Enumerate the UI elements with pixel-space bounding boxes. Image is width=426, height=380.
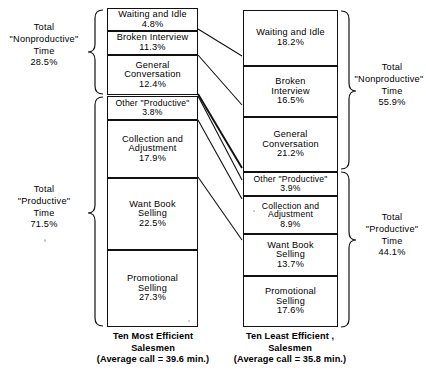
- left-segment-general-conversation[interactable]: General Conversation 12.4%: [107, 55, 198, 95]
- left-column-caption-line3: (Average call = 39.6 min.): [92, 354, 214, 366]
- connector-lines: [198, 29, 242, 240]
- right-segment-broken-interview-value: 16.5%: [277, 96, 304, 105]
- right-group-label-nonproductive-line4: 55.9%: [358, 97, 426, 109]
- right-segment-collection-and-adjustment[interactable]: Collection and Adjustment 8.9%: [243, 196, 338, 234]
- left-column-caption-line2: Salesmen: [92, 343, 214, 355]
- connector-6: [198, 177, 242, 240]
- left-segment-waiting-and-idle-value: 4.8%: [142, 20, 164, 29]
- right-segment-other-productive[interactable]: Other "Productive" 3.9%: [243, 172, 338, 196]
- left-segment-want-book-selling-value: 22.5%: [139, 219, 166, 228]
- left-group-label-nonproductive-line3: Time: [0, 46, 88, 58]
- right-segment-want-book-selling-value: 13.7%: [277, 260, 304, 269]
- connector-3: [198, 94, 242, 168]
- left-brace-nonproductive: [88, 10, 103, 94]
- right-segment-waiting-and-idle[interactable]: Waiting and Idle 18.2%: [243, 10, 338, 66]
- right-group-label-productive-line4: 44.1%: [358, 247, 426, 259]
- left-segment-collection-and-adjustment-value: 17.9%: [139, 154, 166, 163]
- right-segment-broken-interview[interactable]: Broken Interview 16.5%: [243, 66, 338, 117]
- right-group-label-nonproductive: Total "Nonproductive" Time 55.9%: [358, 62, 426, 109]
- connector-1: [198, 29, 242, 56]
- left-column-caption-line1: Ten Most Efficient: [92, 331, 214, 343]
- left-segment-promotional-selling-value: 27.3%: [139, 293, 166, 302]
- right-segment-general-conversation[interactable]: General Conversation 21.2%: [243, 117, 338, 172]
- right-column-caption-line2: Salesmen: [222, 343, 358, 355]
- connector-2: [198, 55, 242, 105]
- left-segment-broken-interview[interactable]: Broken Interview 11.3%: [107, 31, 198, 55]
- left-group-label-productive-line1: Total: [0, 184, 88, 196]
- right-column-caption-line1: Ten Least Efficient ,: [222, 331, 358, 343]
- right-segment-collection-and-adjustment-value: 8.9%: [280, 220, 300, 229]
- right-group-label-productive-line3: Time: [358, 236, 426, 248]
- left-segment-waiting-and-idle-label: Waiting and Idle: [118, 10, 187, 19]
- right-group-label-productive: Total "Productive" Time 44.1%: [358, 212, 426, 259]
- left-segment-waiting-and-idle[interactable]: Waiting and Idle 4.8%: [107, 8, 198, 31]
- right-group-label-productive-line2: "Productive": [358, 224, 426, 236]
- left-segment-other-productive[interactable]: Other "Productive" 3.8%: [107, 96, 198, 120]
- left-group-label-productive-line2: "Productive": [0, 196, 88, 208]
- left-segment-general-conversation-value: 12.4%: [139, 80, 166, 89]
- left-segment-broken-interview-value: 11.3%: [139, 43, 165, 52]
- paper-speck: [44, 239, 46, 242]
- left-segment-collection-and-adjustment[interactable]: Collection and Adjustment 17.9%: [107, 120, 198, 178]
- right-segment-collection-and-adjustment-label-line2: Adjustment: [268, 210, 313, 219]
- right-segment-want-book-selling[interactable]: Want Book Selling 13.7%: [243, 234, 338, 276]
- right-segment-waiting-and-idle-value: 18.2%: [277, 38, 304, 47]
- connector-4: [198, 96, 242, 180]
- right-segment-promotional-selling-value: 17.6%: [277, 306, 304, 315]
- left-segment-other-productive-value: 3.8%: [142, 108, 162, 117]
- left-group-label-nonproductive-line4: 28.5%: [0, 57, 88, 69]
- right-segment-promotional-selling[interactable]: Promotional Selling 17.6%: [243, 276, 338, 327]
- left-column-caption: Ten Most Efficient Salesmen (Average cal…: [92, 331, 214, 366]
- left-group-label-productive: Total "Productive" Time 71.5%: [0, 184, 88, 231]
- comparison-bar-figure: Waiting and Idle 4.8% Broken Interview 1…: [0, 0, 426, 380]
- left-group-label-nonproductive-line2: "Nonproductive": [0, 34, 88, 46]
- left-group-label-nonproductive-line1: Total: [0, 22, 88, 34]
- paper-speck: [188, 320, 190, 322]
- right-segment-general-conversation-value: 21.2%: [277, 149, 304, 158]
- right-group-label-nonproductive-line2: "Nonproductive": [352, 74, 426, 86]
- left-segment-promotional-selling[interactable]: Promotional Selling 27.3%: [107, 250, 198, 327]
- paper-speck: [253, 210, 255, 212]
- right-group-label-productive-line1: Total: [358, 212, 426, 224]
- right-brace-nonproductive: [341, 11, 356, 169]
- left-group-label-nonproductive: Total "Nonproductive" Time 28.5%: [0, 22, 88, 69]
- left-brace-productive: [88, 97, 103, 326]
- left-segment-want-book-selling[interactable]: Want Book Selling 22.5%: [107, 178, 198, 250]
- right-column-caption: Ten Least Efficient , Salesmen (Average …: [222, 331, 358, 366]
- connector-5: [198, 120, 242, 199]
- left-group-label-productive-line4: 71.5%: [0, 219, 88, 231]
- right-braces: [341, 11, 356, 327]
- left-group-label-productive-line3: Time: [0, 208, 88, 220]
- left-braces: [88, 10, 103, 326]
- right-brace-productive: [341, 172, 356, 327]
- right-segment-other-productive-value: 3.9%: [280, 184, 300, 193]
- right-group-label-nonproductive-line1: Total: [358, 62, 426, 74]
- right-group-label-nonproductive-line3: Time: [358, 86, 426, 98]
- right-column-caption-line3: (Average call = 35.8 min.): [222, 354, 358, 366]
